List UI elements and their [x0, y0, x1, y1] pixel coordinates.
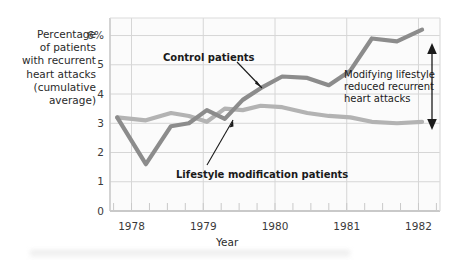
chart-plot: 0123456% 19781979198019811982 Control pa…: [0, 0, 459, 260]
y-tick-label-6: 6%: [87, 29, 104, 41]
x-tick-label-1982: 1982: [405, 220, 432, 232]
page-shadow: [30, 250, 350, 260]
x-tick-label-1979: 1979: [190, 220, 217, 232]
y-tick-label-1: 1: [97, 175, 104, 187]
x-axis-tick-labels: 19781979198019811982: [118, 220, 432, 232]
gap-annotation-line-2: reduced recurrent: [344, 81, 434, 92]
y-axis-tick-labels: 0123456%: [87, 29, 104, 216]
gap-annotation-line-3: heart attacks: [344, 93, 410, 104]
x-tick-label-1981: 1981: [333, 220, 360, 232]
x-tick-label-1980: 1980: [262, 220, 289, 232]
gap-annotation-line-1: Modifying lifestyle: [344, 69, 435, 80]
y-tick-label-3: 3: [97, 117, 104, 129]
chart-figure: Percentage of patients with recurrent he…: [0, 0, 459, 260]
lifestyle-modification-label: Lifestyle modification patients: [176, 169, 348, 180]
y-tick-label-2: 2: [97, 146, 104, 158]
y-tick-label-0: 0: [97, 205, 104, 217]
y-tick-label-5: 5: [97, 58, 104, 70]
y-tick-label-4: 4: [97, 88, 104, 100]
x-tick-label-1978: 1978: [118, 220, 145, 232]
control-patients-label: Control patients: [163, 52, 255, 63]
